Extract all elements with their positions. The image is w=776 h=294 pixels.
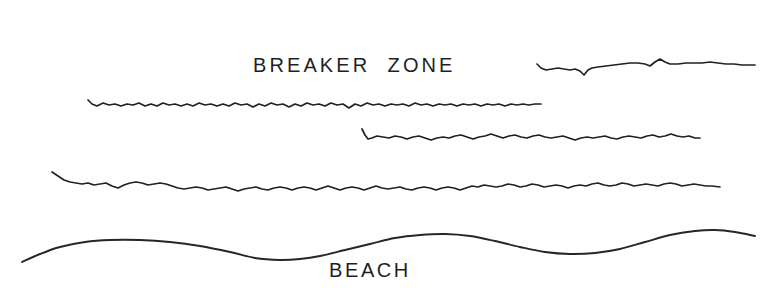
breaker-zone-beach-figure: BREAKER ZONE BEACH (0, 0, 776, 294)
beach-label: BEACH (329, 259, 411, 282)
breaker-zone-label: BREAKER ZONE (253, 54, 456, 77)
wave-diagram-canvas (0, 0, 776, 294)
figure-background (0, 0, 776, 294)
